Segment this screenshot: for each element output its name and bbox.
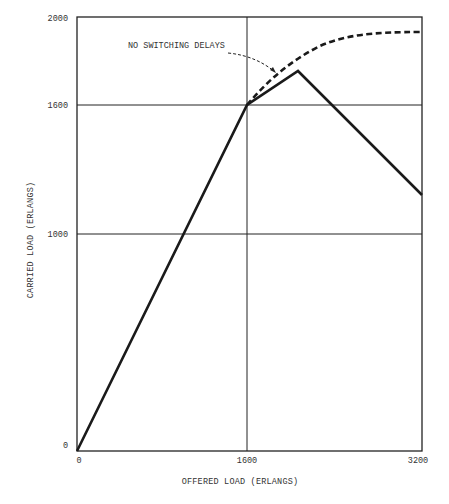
x-tick-0: 0 [76,456,81,466]
annotation-arrowhead-icon [270,67,276,73]
y-axis-label: CARRIED LOAD (ERLANGS) [26,182,36,299]
line-chart: 2000 1600 1000 0 0 1600 3200 OFFERED LOA… [0,0,449,504]
annotation-arrow [228,53,275,72]
series-carried-load-line [77,71,422,451]
x-axis-label: OFFERED LOAD (ERLANGS) [182,477,299,487]
y-tick-2000: 2000 [48,14,68,24]
y-tick-1600: 1600 [48,101,68,111]
y-tick-0: 0 [63,441,68,451]
x-tick-3200: 3200 [408,456,428,466]
annotation-no-switching-delays: NO SWITCHING DELAYS [128,41,225,51]
y-tick-1000: 1000 [48,230,68,240]
x-tick-1600: 1600 [237,456,257,466]
